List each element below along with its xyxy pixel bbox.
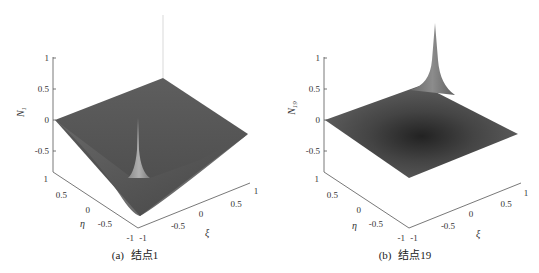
svg-text:1: 1	[316, 53, 321, 63]
svg-text:0: 0	[199, 209, 204, 219]
svg-text:0.5: 0.5	[309, 84, 321, 94]
z-tick-label: 0	[45, 115, 50, 125]
panel-b: 1 0.5 0 -0.5 N19 1 0.5 0 -0.5 -1 η -1 -0…	[270, 0, 539, 273]
svg-text:0.5: 0.5	[327, 190, 339, 200]
caption-a: (a) 结点1	[0, 246, 270, 262]
caption-text: 结点1	[131, 249, 159, 261]
surface-spike	[410, 23, 455, 95]
caption-text: 结点19	[398, 249, 431, 261]
caption-tag: (b)	[379, 249, 392, 261]
z-tick-label: -0.5	[35, 146, 50, 156]
svg-text:0.5: 0.5	[500, 199, 512, 209]
surface-plot-b: 1 0.5 0 -0.5 N19 1 0.5 0 -0.5 -1 η -1 -0…	[270, 0, 539, 273]
svg-text:0.5: 0.5	[56, 190, 68, 200]
caption-b: (b) 结点19	[270, 246, 539, 262]
surface-plot-a: 1 0.5 0 -0.5 N1 1 0.5 0 -0.5 -1 η -1 -0.…	[0, 0, 270, 273]
svg-text:1: 1	[315, 174, 320, 184]
svg-text:N19: N19	[286, 101, 299, 116]
z-tick-label: 0.5	[38, 84, 50, 94]
svg-text:-0.5: -0.5	[441, 221, 456, 231]
svg-text:-0.5: -0.5	[306, 146, 321, 156]
z-axis-label: N1	[15, 107, 28, 118]
eta-axis-label: η	[352, 220, 357, 231]
z-tick-label: 1	[45, 53, 50, 63]
svg-text:1: 1	[254, 186, 259, 196]
svg-text:N1: N1	[15, 107, 28, 118]
svg-text:1: 1	[524, 188, 529, 198]
svg-text:1: 1	[44, 174, 49, 184]
svg-text:0.5: 0.5	[230, 199, 242, 209]
svg-text:-0.5: -0.5	[369, 219, 384, 229]
svg-text:-0.5: -0.5	[98, 219, 113, 229]
svg-text:-1: -1	[127, 233, 135, 243]
panel-a: 1 0.5 0 -0.5 N1 1 0.5 0 -0.5 -1 η -1 -0.…	[0, 0, 270, 273]
eta-ticks: 1 0.5 0 -0.5 -1	[315, 174, 406, 243]
xi-axis-label: ξ	[205, 227, 210, 239]
eta-axis-label: η	[80, 218, 85, 229]
caption-tag: (a)	[112, 249, 124, 261]
svg-text:0: 0	[357, 205, 362, 215]
xi-ticks: -1 -0.5 0 0.5 1	[410, 188, 528, 243]
svg-text:-1: -1	[410, 233, 418, 243]
svg-text:0: 0	[316, 115, 321, 125]
z-axis-label: N19	[286, 101, 299, 116]
svg-text:0: 0	[469, 209, 474, 219]
svg-text:0: 0	[86, 205, 91, 215]
surface-top	[325, 85, 518, 178]
eta-axis	[324, 172, 409, 228]
svg-text:-1: -1	[139, 233, 147, 243]
svg-text:-1: -1	[398, 233, 406, 243]
xi-axis-label: ξ	[476, 228, 481, 240]
svg-text:-0.5: -0.5	[171, 221, 186, 231]
